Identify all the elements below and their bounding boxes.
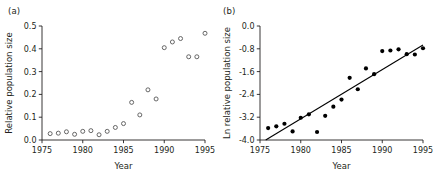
data-point: [274, 124, 278, 128]
data-point: [73, 132, 77, 136]
y-tick-label: 0.1: [24, 113, 37, 122]
x-tick-label: 1985: [331, 146, 351, 155]
data-point: [162, 46, 166, 50]
data-point: [195, 55, 199, 59]
data-point: [138, 113, 142, 117]
data-point: [89, 129, 93, 133]
data-point: [396, 47, 400, 51]
x-tick-label: 1985: [113, 146, 133, 155]
data-point: [356, 87, 360, 91]
data-point: [331, 105, 335, 109]
data-point: [179, 37, 183, 41]
data-point: [315, 130, 319, 134]
data-point: [146, 88, 150, 92]
y-axis-title: Ln relative population size: [222, 27, 232, 139]
y-tick-label: -3.2: [239, 113, 255, 122]
data-point: [307, 112, 311, 116]
panel-a: (a) 0.00.10.20.30.40.5197519801985199019…: [0, 0, 217, 189]
data-point: [323, 114, 327, 118]
data-point: [339, 97, 343, 101]
x-tick-label: 1975: [250, 146, 270, 155]
data-point: [405, 52, 409, 56]
data-point: [421, 46, 425, 50]
data-point: [81, 129, 85, 133]
y-tick-label: 0.0: [24, 136, 37, 145]
panel-b-plot: 0.0-0.8-1.6-2.4-3.2-4.019751980198519901…: [217, 0, 434, 189]
y-tick-label: -1.6: [239, 68, 255, 77]
panel-a-plot: 0.00.10.20.30.40.519751980198519901995Ye…: [0, 0, 217, 189]
figure: (a) 0.00.10.20.30.40.5197519801985199019…: [0, 0, 434, 189]
panel-b: (b) 0.0-0.8-1.6-2.4-3.2-4.01975198019851…: [217, 0, 434, 189]
y-tick-label: 0.5: [24, 22, 37, 31]
data-point: [170, 40, 174, 44]
y-tick-label: 0.0: [242, 22, 255, 31]
regression-line: [266, 45, 423, 140]
data-point: [266, 126, 270, 130]
data-point: [364, 66, 368, 70]
data-point: [291, 129, 295, 133]
data-point: [64, 130, 68, 134]
data-point: [113, 125, 117, 129]
data-point: [154, 97, 158, 101]
y-tick-label: 0.2: [24, 90, 37, 99]
y-tick-label: -4.0: [239, 136, 255, 145]
data-point: [187, 55, 191, 59]
x-tick-label: 1980: [73, 146, 93, 155]
y-tick-label: 0.3: [24, 68, 37, 77]
x-axis-title: Year: [332, 161, 352, 171]
x-tick-label: 1975: [32, 146, 52, 155]
y-tick-label: -2.4: [239, 90, 255, 99]
data-point: [203, 31, 207, 35]
x-tick-label: 1990: [154, 146, 174, 155]
x-tick-label: 1990: [372, 146, 392, 155]
x-tick-label: 1980: [291, 146, 311, 155]
data-point: [48, 132, 52, 136]
x-axis-title: Year: [114, 161, 134, 171]
data-point: [299, 116, 303, 120]
data-point: [282, 122, 286, 126]
x-tick-label: 1995: [413, 146, 433, 155]
data-point: [380, 49, 384, 53]
data-point: [348, 76, 352, 80]
data-point: [130, 100, 134, 104]
x-tick-label: 1995: [195, 146, 215, 155]
y-tick-label: -0.8: [239, 45, 255, 54]
data-point: [122, 122, 126, 126]
data-point: [105, 129, 109, 133]
data-point: [97, 133, 101, 137]
data-point: [388, 48, 392, 52]
data-point: [56, 131, 60, 135]
data-point: [413, 52, 417, 56]
y-axis-title: Relative population size: [4, 32, 14, 133]
data-point: [372, 72, 376, 76]
y-tick-label: 0.4: [24, 45, 37, 54]
